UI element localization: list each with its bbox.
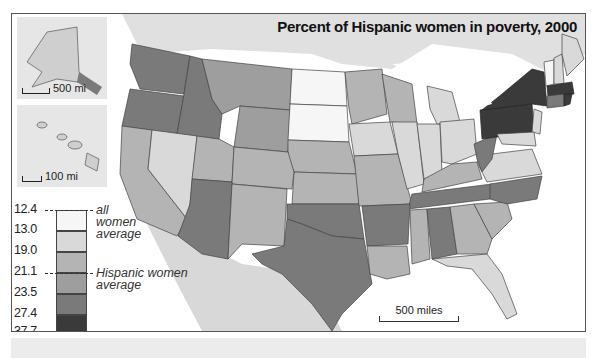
state-co (232, 147, 294, 189)
legend-break: 37.7 (14, 324, 37, 332)
legend-break: 13.0 (14, 222, 37, 236)
hawaii-inset: 100 mi (17, 105, 107, 187)
map-scale: 500 miles (379, 304, 459, 322)
hawaii-scale-label: 100 mi (45, 170, 78, 182)
legend-break: 12.4 (14, 202, 37, 216)
legend-swatch (56, 210, 87, 231)
bottom-band (11, 338, 586, 358)
state-ne (288, 140, 357, 174)
state-ar (362, 204, 410, 246)
legend-break: 19.0 (14, 243, 37, 257)
legend-break: 23.5 (14, 285, 37, 299)
state-md (497, 132, 536, 146)
scale-bar-icon (22, 176, 42, 182)
legend-swatch (56, 273, 87, 294)
scale-bar-icon (22, 88, 50, 94)
hispanic-women-average-line (45, 273, 93, 274)
hawaii-scale: 100 mi (22, 170, 78, 182)
state-ri (564, 94, 572, 106)
state-ia (349, 122, 398, 156)
state-mn (345, 69, 387, 124)
state-vt (544, 60, 554, 86)
state-wi (382, 74, 417, 124)
state-ct (547, 94, 564, 108)
state-nj (532, 109, 542, 134)
legend-swatch (56, 252, 87, 273)
state-wa (130, 44, 190, 94)
map-title: Percent of Hispanic women in poverty, 20… (277, 18, 577, 35)
alaska-scale-label: 500 mi (53, 82, 86, 94)
legend: 12.4 13.0 19.0 21.1 23.5 27.4 37.7 all w… (12, 202, 142, 330)
hispanic-women-average-label: Hispanic women average (96, 267, 188, 291)
legend-break: 21.1 (14, 264, 37, 278)
alaska-scale: 500 mi (22, 82, 86, 94)
legend-swatch (56, 315, 87, 332)
legend-swatch (56, 231, 87, 252)
legend-swatch (56, 294, 87, 315)
state-ks (292, 172, 359, 204)
all-women-average-line (45, 210, 93, 211)
state-nd (290, 69, 347, 106)
map-scale-label: 500 miles (379, 304, 459, 316)
all-women-average-label: all women average (96, 204, 141, 240)
state-ut (192, 136, 234, 182)
state-la (367, 246, 410, 279)
state-wy (234, 106, 290, 152)
state-mi (427, 86, 460, 124)
state-nh (554, 54, 564, 84)
legend-break: 27.4 (14, 306, 37, 320)
alaska-inset: 500 mi (17, 17, 107, 99)
state-ms (410, 209, 430, 264)
map-frame: Percent of Hispanic women in poverty, 20… (11, 13, 586, 332)
state-oh (440, 119, 477, 164)
state-sd (288, 104, 349, 142)
scale-bar-icon (379, 316, 459, 322)
